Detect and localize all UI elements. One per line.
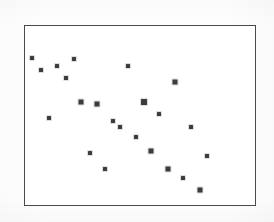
- scatter-point: [141, 99, 147, 105]
- scatter-point: [30, 56, 34, 60]
- scatter-point: [134, 135, 138, 139]
- scatter-point: [103, 167, 107, 171]
- scatter-point: [111, 119, 115, 123]
- scatter-point: [95, 102, 100, 107]
- scatter-point: [39, 68, 43, 72]
- scatter-point: [149, 149, 154, 154]
- scatter-point: [88, 151, 92, 155]
- scatter-point: [126, 64, 130, 68]
- scatter-point: [205, 154, 209, 158]
- scatter-point: [79, 100, 84, 105]
- plot-frame: [24, 25, 256, 206]
- scatter-point: [55, 64, 59, 68]
- scatter-point: [72, 57, 76, 61]
- scatter-point: [157, 112, 161, 116]
- scatter-point: [165, 167, 170, 172]
- scatter-point: [189, 125, 193, 129]
- scatter-plot-area: [25, 26, 255, 205]
- figure-container: [0, 0, 274, 222]
- scatter-point: [64, 76, 68, 80]
- scatter-point: [197, 188, 202, 193]
- scatter-point: [47, 116, 51, 120]
- scatter-point: [181, 176, 185, 180]
- scatter-point: [173, 80, 178, 85]
- scatter-point: [118, 125, 122, 129]
